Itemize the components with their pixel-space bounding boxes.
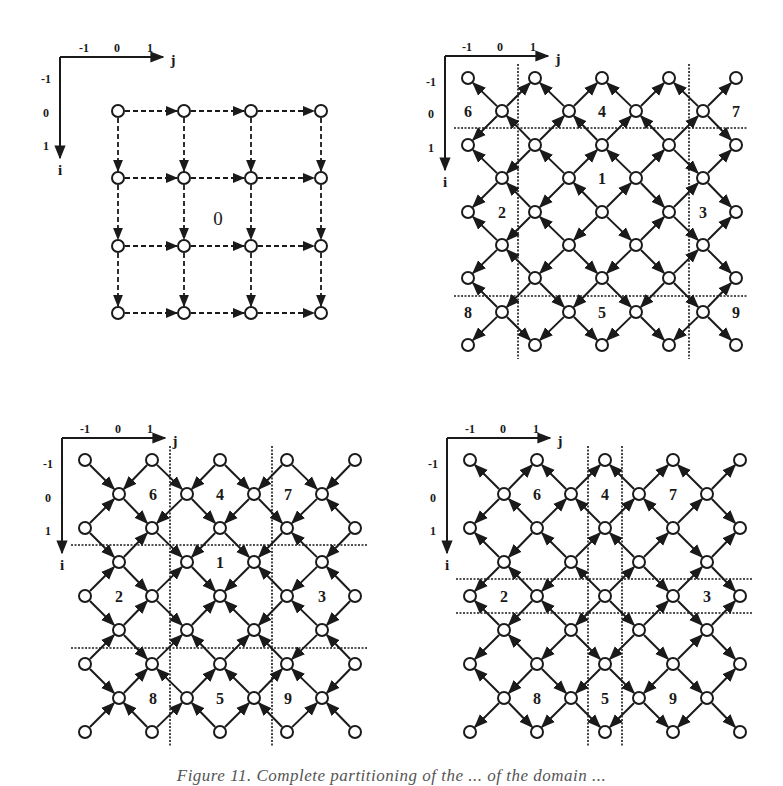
lattice-node <box>633 556 645 568</box>
lattice-arrow <box>124 703 147 727</box>
region-label-3: 3 <box>699 204 707 221</box>
lattice-arrow <box>475 533 499 557</box>
lattice-node <box>316 488 328 500</box>
lattice-arrow <box>90 567 114 591</box>
lattice-node <box>730 206 742 218</box>
lattice-arrow <box>327 669 350 693</box>
lattice-node <box>214 726 226 738</box>
j-tick-label: 1 <box>147 422 153 436</box>
lattice-arrow <box>678 669 702 693</box>
lattice-arrow <box>641 283 664 307</box>
i-axis-label: i <box>58 162 62 178</box>
lattice-node <box>181 624 193 636</box>
lattice-arrow <box>542 533 566 557</box>
region-label-4: 4 <box>601 486 609 503</box>
lattice-arrow <box>644 703 668 727</box>
lattice-arrow <box>641 217 664 240</box>
lattice-arrow <box>509 533 532 557</box>
lattice-node <box>531 454 543 466</box>
lattice-arrow <box>574 183 597 207</box>
figure-caption: Figure 11. Complete partitioning of the … <box>0 766 783 786</box>
i-axis-label: i <box>445 557 449 573</box>
lattice-arrow <box>259 635 282 659</box>
lattice-node <box>181 556 193 568</box>
lattice-arrow <box>225 465 249 489</box>
lattice-arrow <box>90 465 114 489</box>
lattice-node <box>565 624 577 636</box>
lattice-arrow <box>644 669 668 693</box>
lattice-node <box>464 726 476 738</box>
lattice-node <box>79 590 91 602</box>
lattice-arrow <box>641 150 664 173</box>
lattice-node <box>596 272 608 284</box>
lattice-arrow <box>259 465 282 489</box>
i-axis-label: i <box>443 174 447 190</box>
lattice-node <box>563 172 575 184</box>
lattice-arrow <box>607 250 631 273</box>
lattice-arrow <box>712 635 735 659</box>
region-label-6: 6 <box>533 486 541 503</box>
lattice-node <box>349 454 361 466</box>
lattice-node <box>496 239 508 251</box>
lattice-arrow <box>90 601 114 625</box>
lattice-node <box>701 692 713 704</box>
lattice-node <box>281 658 293 670</box>
lattice-node <box>146 454 158 466</box>
grid-node <box>315 240 327 252</box>
lattice-node <box>79 522 91 534</box>
lattice-node <box>529 339 541 351</box>
region-label-4: 4 <box>216 486 224 503</box>
lattice-node <box>498 556 510 568</box>
grid-node <box>315 105 327 117</box>
lattice-arrow <box>509 465 532 489</box>
lattice-node <box>79 726 91 738</box>
lattice-node <box>248 556 260 568</box>
lattice-node <box>599 658 611 670</box>
lattice-arrow <box>225 635 249 659</box>
lattice-arrow <box>540 317 564 340</box>
grid-node <box>112 172 124 184</box>
lattice-node <box>498 624 510 636</box>
lattice-node <box>214 590 226 602</box>
lattice-arrow <box>574 217 597 240</box>
grid-node <box>245 105 257 117</box>
lattice-arrow <box>259 669 282 693</box>
lattice-arrow <box>259 499 282 523</box>
j-tick-label: -1 <box>462 40 472 54</box>
lattice-node <box>599 522 611 534</box>
lattice-arrow <box>708 183 731 207</box>
lattice-node <box>464 658 476 670</box>
j-tick-label: 1 <box>530 40 536 54</box>
lattice-arrow <box>712 499 735 523</box>
lattice-node <box>697 105 709 117</box>
grid-node <box>245 172 257 184</box>
lattice-node <box>563 239 575 251</box>
i-tick-label: 1 <box>45 524 51 538</box>
grid-node <box>178 240 190 252</box>
lattice-arrow <box>192 703 215 727</box>
lattice-arrow <box>678 499 702 523</box>
lattice-node <box>734 522 746 534</box>
lattice-arrow <box>674 217 698 240</box>
lattice-arrow <box>678 703 702 727</box>
grid-node <box>112 105 124 117</box>
lattice-node <box>563 105 575 117</box>
lattice-node <box>563 306 575 318</box>
lattice-arrow <box>124 465 147 489</box>
lattice-node <box>701 624 713 636</box>
lattice-node <box>248 692 260 704</box>
lattice-node <box>146 726 158 738</box>
lattice-arrow <box>644 533 668 557</box>
lattice-arrow <box>292 601 317 625</box>
lattice-node <box>734 658 746 670</box>
j-axis-label: j <box>555 51 561 67</box>
lattice-arrow <box>607 217 631 240</box>
lattice-node <box>630 105 642 117</box>
lattice-node <box>633 488 645 500</box>
lattice-arrow <box>678 635 702 659</box>
lattice-node <box>113 556 125 568</box>
lattice-node <box>349 726 361 738</box>
region-label-9: 9 <box>732 304 740 321</box>
grid-node <box>315 172 327 184</box>
